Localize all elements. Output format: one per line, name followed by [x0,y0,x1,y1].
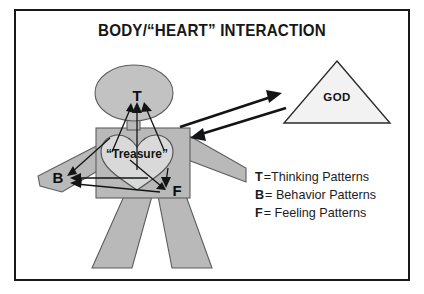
feeling-label: F [172,182,181,199]
behavior-label: B [53,169,64,186]
god-to-body-arrow [190,108,286,141]
legend-separator-b: = [265,188,272,202]
legend-separator-t: = [264,170,271,184]
legend-item-behavior: B= Behavior Patterns [255,186,405,204]
left-leg-shape [92,196,152,268]
body-to-god-arrow [180,90,282,127]
legend-key-f: F [255,206,263,220]
legend-separator-f: = [264,206,271,220]
legend-desc-behavior: Behavior Patterns [276,188,376,202]
diagram-canvas: BODY/“HEART” INTERACTION “Treasure” GOD [0,0,424,294]
legend-item-thinking: T=Thinking Patterns [255,168,405,186]
legend: T=Thinking Patterns B= Behavior Patterns… [255,168,405,222]
figure-illustration: “Treasure” GOD [0,0,424,294]
god-label: GOD [323,91,350,103]
thinking-label: T [132,87,141,104]
right-leg-shape [158,196,212,268]
legend-desc-thinking: Thinking Patterns [271,170,369,184]
legend-item-feeling: F= Feeling Patterns [255,204,405,222]
legend-key-t: T [255,170,263,184]
legend-desc-feeling: Feeling Patterns [275,206,367,220]
legend-key-b: B [255,188,264,202]
